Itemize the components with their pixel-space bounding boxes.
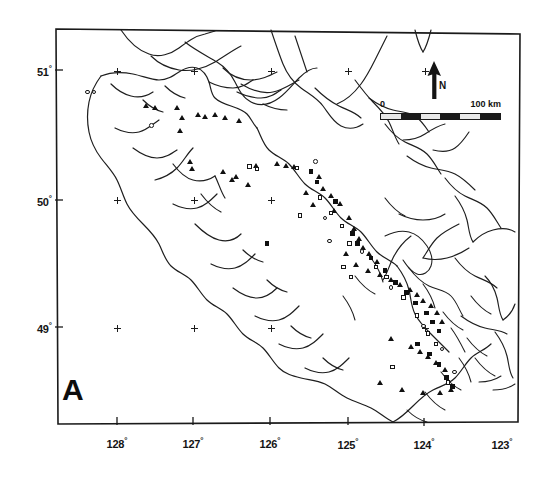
- grid-cross: [191, 325, 198, 332]
- degree-symbol: °: [431, 437, 434, 446]
- record-square: [355, 241, 360, 246]
- record-open-circle: [452, 370, 457, 375]
- record-open-circle: [389, 285, 394, 290]
- record-open-circle: [360, 249, 365, 254]
- record-square: [427, 352, 432, 357]
- record-triangle: [245, 182, 251, 187]
- record-triangle: [377, 380, 383, 385]
- record-triangle: [320, 186, 326, 191]
- degree-symbol: °: [49, 194, 52, 203]
- record-square: [393, 280, 398, 285]
- record-triangle: [195, 112, 201, 117]
- record-triangle: [365, 268, 371, 273]
- lat-tick-label-50: 50°: [20, 194, 52, 208]
- record-triangle: [303, 190, 309, 195]
- record-open-square: [255, 167, 259, 171]
- lon-tick-value-126: 126: [260, 438, 278, 450]
- north-arrow: [418, 59, 458, 99]
- record-square: [315, 180, 320, 185]
- record-triangle: [236, 118, 242, 123]
- record-triangle: [222, 115, 228, 120]
- record-open-circle: [313, 159, 318, 164]
- scale-bar: 0 100 km: [380, 100, 501, 124]
- scale-bar-max-label: 100 km: [470, 99, 501, 109]
- record-triangle: [408, 344, 414, 349]
- record-square: [424, 311, 429, 316]
- scale-bar-rule: [380, 113, 501, 120]
- record-triangle: [346, 215, 352, 220]
- record-square: [369, 256, 374, 261]
- record-open-square: [349, 275, 353, 279]
- record-triangle: [420, 298, 426, 303]
- record-square: [309, 169, 314, 174]
- record-open-square: [247, 164, 251, 168]
- record-triangle: [434, 310, 440, 315]
- grid-cross: [114, 197, 121, 204]
- scale-bar-segment: [440, 114, 460, 119]
- record-triangle: [442, 367, 448, 372]
- grid-cross: [191, 68, 198, 75]
- record-open-square: [295, 166, 299, 170]
- record-triangle: [343, 251, 349, 256]
- record-triangle: [187, 159, 193, 164]
- lat-tick-label-51: 51°: [20, 64, 52, 78]
- record-open-square: [374, 265, 378, 269]
- degree-symbol: °: [49, 321, 52, 330]
- record-open-circle: [323, 216, 328, 221]
- lon-tick-label-125: 125°: [324, 437, 372, 451]
- lat-tick-value-50: 50: [37, 196, 49, 208]
- grid-cross: [345, 68, 352, 75]
- record-triangle: [414, 292, 420, 297]
- record-triangle: [397, 282, 403, 287]
- lon-tick-value-123: 123: [492, 439, 510, 451]
- occurrence-symbol-layer: [0, 0, 553, 482]
- grid-cross: [191, 197, 198, 204]
- record-triangle: [189, 166, 195, 171]
- record-triangle: [328, 193, 334, 198]
- record-triangle: [428, 303, 434, 308]
- record-triangle: [388, 336, 394, 341]
- panel-letter: A: [62, 375, 84, 405]
- record-triangle: [316, 174, 322, 179]
- lon-tick-label-124: 124°: [400, 437, 448, 451]
- record-open-square: [340, 224, 344, 228]
- lon-tick-value-124: 124: [414, 439, 432, 451]
- record-triangle: [437, 390, 443, 395]
- record-triangle: [212, 112, 218, 117]
- record-square: [413, 301, 418, 306]
- grid-cross: [268, 325, 275, 332]
- record-triangle: [337, 201, 343, 206]
- record-triangle: [310, 202, 316, 207]
- record-open-square: [384, 275, 388, 279]
- degree-symbol: °: [124, 436, 127, 445]
- record-open-circle: [327, 239, 332, 244]
- record-triangle: [143, 103, 149, 108]
- grid-cross: [114, 325, 121, 332]
- record-triangle: [152, 105, 158, 110]
- degree-symbol: °: [509, 437, 512, 446]
- record-triangle: [202, 114, 208, 119]
- record-triangle: [399, 387, 405, 392]
- record-triangle: [417, 349, 423, 354]
- record-triangle: [374, 259, 380, 264]
- lon-tick-value-125: 125: [338, 439, 356, 451]
- record-triangle: [179, 115, 185, 120]
- degree-symbol: °: [355, 437, 358, 446]
- grid-cross: [268, 197, 275, 204]
- lat-tick-value-49: 49: [37, 323, 49, 335]
- grid-cross: [268, 68, 275, 75]
- record-square: [437, 362, 442, 367]
- record-open-circle: [149, 123, 154, 128]
- record-open-square: [298, 213, 302, 217]
- record-open-square: [446, 380, 450, 384]
- record-open-square: [390, 365, 394, 369]
- record-open-square: [434, 342, 438, 346]
- record-square: [350, 231, 355, 236]
- lon-tick-label-126: 126°: [246, 436, 294, 450]
- degree-symbol: °: [49, 64, 52, 73]
- lon-tick-value-127: 127: [183, 438, 201, 450]
- scale-bar-segment: [460, 114, 480, 119]
- record-square: [404, 290, 409, 295]
- record-square: [437, 329, 442, 334]
- degree-symbol: °: [200, 436, 203, 445]
